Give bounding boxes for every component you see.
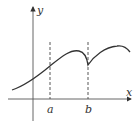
mark-b-label: b [85, 103, 92, 116]
x-axis-label: x [126, 86, 133, 99]
function-graph: y x a b [0, 0, 139, 127]
y-axis-label: y [36, 4, 44, 17]
mark-a-label: a [47, 103, 54, 116]
function-curve [12, 46, 130, 90]
